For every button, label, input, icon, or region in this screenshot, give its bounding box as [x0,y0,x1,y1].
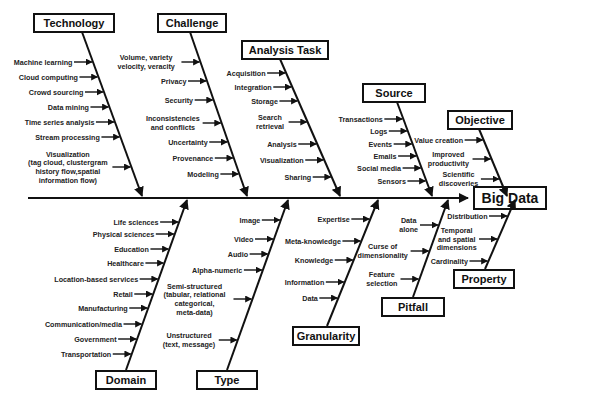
cause-label: Retail [113,290,133,299]
cause-item: Communication/media [45,320,142,329]
cause-label: Healthcare [107,259,144,268]
cause-label: Transactions [338,115,382,124]
cause-item: Privacy [161,77,206,86]
cause-label: Security [165,96,193,105]
cause-item: Time series analysis [25,118,114,127]
cause-item: Cloud computing [19,73,98,82]
cause-item: Security [165,96,213,105]
cause-item: Modeling [187,170,238,179]
cause-label: Manufacturing [78,304,128,313]
cause-item: Featureselection [366,270,418,288]
cause-item: Uncertainty [168,138,227,147]
cause-label: Distribution [447,212,487,221]
cause-label: Video [234,235,254,244]
cause-item: Alpha-numeric [192,266,262,275]
cause-label: Transportation [61,350,111,359]
cause-item: Events [369,140,412,149]
cause-label: velocity, veracity [117,62,174,71]
cause-label: Machine learning [14,58,73,67]
cause-item: Life sciences [113,218,178,227]
cause-label: discoveries [439,179,479,188]
cause-item: Knowledge [295,256,353,265]
cause-label: Integration [235,83,272,92]
cause-label: Communication/media [45,320,123,329]
cause-label: Privacy [161,77,187,86]
category-label-property: Property [461,273,507,285]
cause-item: Provenance [173,154,233,163]
cause-label: Meta-knowledge [285,237,341,246]
cause-item: Meta-knowledge [285,237,360,246]
cause-item: Emails [373,152,416,161]
cause-label: Cloud computing [19,73,78,82]
cause-item: Sensors [378,177,426,186]
cause-item: Physical sciences [93,230,174,239]
cause-label: Logs [370,127,387,136]
cause-label: Sharing [284,173,311,182]
cause-label: Audio [228,250,249,259]
cause-item: Analysis [267,140,316,149]
cause-label: and conflicts [151,123,195,132]
cause-item: Transactions [338,115,402,124]
cause-item: Crowd sourcing [29,88,103,97]
cause-label: Physical sciences [93,230,155,239]
cause-label: (text, message) [163,340,216,349]
cause-item: Education [114,245,168,254]
cause-label: Alpha-numeric [192,266,242,275]
cause-label: Government [74,335,117,344]
cause-label: alone [399,225,418,234]
cause-label: Visualization [260,156,304,165]
cause-item: Data [302,294,337,303]
cause-label: Social media [357,164,402,173]
cause-item: Information [285,278,344,287]
cause-item: Unstructured(text, message) [163,331,237,349]
cause-item: Sharing [284,173,330,182]
category-label-analysis-task: Analysis Task [249,44,322,56]
cause-item: Visualization(tag cloud, clustergramhist… [28,150,130,185]
cause-label: dimensions [437,243,477,252]
category-label-pitfall: Pitfall [398,301,428,313]
cause-label: Uncertainty [168,138,208,147]
cause-item: Manufacturing [78,304,147,313]
cause-item: Expertise [317,215,369,224]
cause-item: Semi-structured(tabular, relationalcateg… [164,282,252,317]
category-label-source: Source [375,87,412,99]
cause-item: Image [240,216,280,225]
cause-item: Audio [228,250,268,259]
cause-item: Improvedproductivity [428,150,491,168]
cause-item: Transportation [61,350,131,359]
cause-label: Sensors [378,177,406,186]
cause-item: Stream processing [35,133,119,142]
cause-label: Knowledge [295,256,333,265]
cause-item: Government [74,335,136,344]
cause-item: Scientificdiscoveries [439,170,499,188]
cause-item: Acquisition [226,69,285,78]
cause-label: Data mining [48,103,89,112]
cause-label: Provenance [173,154,214,163]
cause-item: Storage [251,97,297,106]
cause-item: Integration [235,83,292,92]
cause-label: Emails [373,152,396,161]
cause-label: dimensionality [358,251,408,260]
cause-item: Data mining [48,103,109,112]
cause-label: productivity [428,159,469,168]
bones: TechnologyChallengeAnalysis TaskSourceOb… [34,14,515,389]
cause-item: Volume, varietyvelocity, veracity [117,53,199,71]
cause-label: Time series analysis [25,118,95,127]
cause-label: Expertise [317,215,349,224]
category-label-objective: Objective [455,114,505,126]
cause-item: Value creation [414,136,482,145]
cause-item: Machine learning [14,58,92,67]
bone-objective [479,129,507,196]
category-label-type: Type [215,374,240,386]
cause-label: Analysis [267,140,297,149]
category-label-granularity: Granularity [297,330,357,342]
cause-item: Retail [113,290,152,299]
cause-label: information flow) [39,176,98,185]
cause-label: Image [240,216,261,225]
cause-item: Curse ofdimensionality [358,242,429,260]
bone-property [485,200,515,269]
cause-label: Location-based services [54,275,138,284]
cause-label: Value creation [414,136,463,145]
cause-item: Inconsistenciesand conflicts [146,114,221,132]
cause-item: Visualization [260,156,323,165]
